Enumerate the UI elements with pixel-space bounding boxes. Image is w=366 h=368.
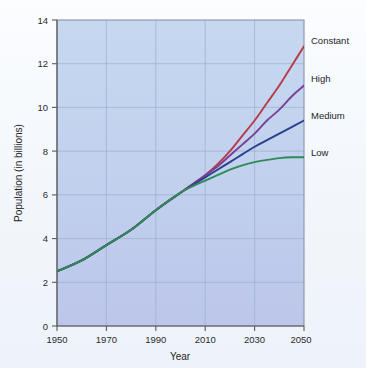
y-tick-label-0: 0	[43, 321, 48, 332]
chart-canvas: 0 2 4 6 8 10 12 14 1950 1970 1990 2010 2…	[0, 0, 366, 368]
x-tick-label-1950: 1950	[46, 334, 67, 345]
x-tick-label-2030: 2030	[244, 334, 265, 345]
x-tick-label-2010: 2010	[195, 334, 216, 345]
x-axis-title: Year	[170, 351, 191, 362]
x-axis-ticks	[57, 326, 304, 331]
x-tick-label-1970: 1970	[96, 334, 117, 345]
legend-label-low: Low	[311, 147, 329, 158]
y-tick-label-12: 12	[37, 58, 48, 69]
plot-area-background	[57, 20, 304, 326]
y-axis-title: Population (in billions)	[13, 124, 24, 222]
y-tick-label-2: 2	[43, 277, 48, 288]
y-tick-label-4: 4	[43, 233, 48, 244]
y-tick-label-8: 8	[43, 146, 48, 157]
y-tick-label-14: 14	[37, 15, 48, 26]
legend-label-medium: Medium	[311, 110, 345, 121]
legend-label-constant: Constant	[311, 35, 349, 46]
y-axis-ticks	[52, 20, 57, 326]
y-tick-label-10: 10	[37, 102, 48, 113]
x-tick-label-1990: 1990	[145, 334, 166, 345]
population-projection-chart: 0 2 4 6 8 10 12 14 1950 1970 1990 2010 2…	[0, 0, 366, 368]
x-tick-label-2050: 2050	[290, 334, 311, 345]
y-tick-label-6: 6	[43, 189, 48, 200]
legend-label-high: High	[311, 73, 331, 84]
